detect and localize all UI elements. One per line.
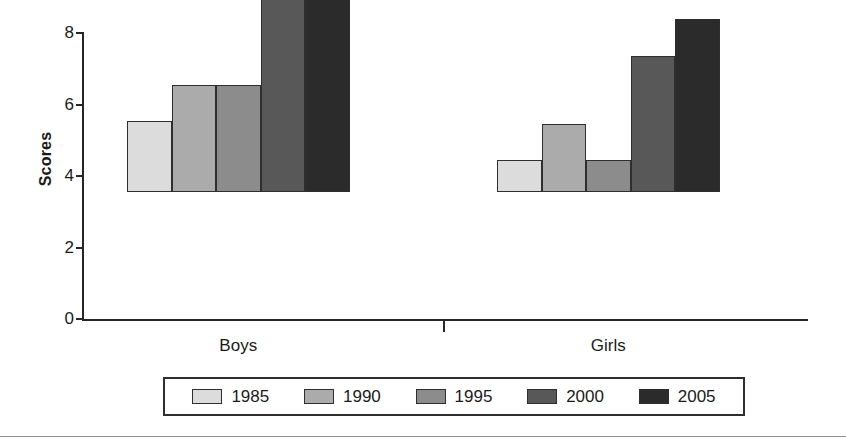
bar-girls-2005 [675, 19, 720, 192]
bar-boys-1995 [216, 85, 261, 192]
legend-label: 1985 [231, 388, 269, 405]
legend-swatch-icon [527, 389, 557, 404]
bar-boys-2000 [261, 0, 306, 192]
x-axis-line [82, 319, 808, 321]
bar-boys-2005 [305, 0, 350, 192]
x-axis-group-label: Boys [178, 336, 298, 356]
x-axis-group-divider-tick [443, 321, 445, 332]
legend-swatch-icon [639, 389, 669, 404]
bar-girls-1995 [586, 160, 631, 192]
bar-girls-1985 [497, 160, 542, 192]
legend-label: 2005 [678, 388, 716, 405]
bar-boys-1990 [172, 85, 217, 192]
bar-chart: Scores 86420 BoysGirls 19851990199520002… [0, 0, 846, 448]
legend-swatch-icon [304, 389, 334, 404]
legend-item-2005[interactable]: 2005 [639, 388, 716, 405]
plot-area [0, 0, 846, 321]
legend-item-1985[interactable]: 1985 [192, 388, 269, 405]
legend-label: 1995 [455, 388, 493, 405]
legend-swatch-icon [192, 389, 222, 404]
chart-legend: 19851990199520002005 [163, 377, 745, 416]
legend-item-2000[interactable]: 2000 [527, 388, 604, 405]
page-divider-rule [0, 436, 846, 437]
legend-item-1995[interactable]: 1995 [416, 388, 493, 405]
bar-boys-1985 [127, 121, 172, 193]
legend-label: 1990 [343, 388, 381, 405]
x-axis-group-label: Girls [548, 336, 668, 356]
bar-girls-1990 [542, 124, 587, 192]
bar-girls-2000 [631, 56, 676, 192]
legend-item-1990[interactable]: 1990 [304, 388, 381, 405]
legend-swatch-icon [416, 389, 446, 404]
legend-label: 2000 [566, 388, 604, 405]
